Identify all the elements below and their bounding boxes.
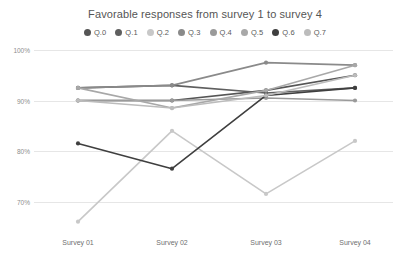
- chart-container: Favorable responses from survey 1 to sur…: [0, 0, 410, 265]
- data-point-marker[interactable]: [76, 220, 80, 224]
- data-point-marker[interactable]: [353, 139, 357, 143]
- data-point-marker[interactable]: [264, 192, 268, 196]
- x-tick-label: Survey 04: [339, 239, 371, 246]
- data-point-marker[interactable]: [353, 98, 357, 102]
- data-point-marker[interactable]: [264, 93, 268, 97]
- data-point-marker[interactable]: [264, 88, 268, 92]
- data-point-marker[interactable]: [170, 106, 174, 110]
- data-point-marker[interactable]: [76, 98, 80, 102]
- series-q3: [76, 61, 357, 90]
- plot-area: 100%90%80%70% Survey 01Survey 02Survey 0…: [0, 0, 410, 265]
- data-point-marker[interactable]: [170, 98, 174, 102]
- data-point-marker[interactable]: [76, 86, 80, 90]
- data-point-marker[interactable]: [353, 63, 357, 67]
- data-point-marker[interactable]: [170, 167, 174, 171]
- data-point-marker[interactable]: [264, 61, 268, 65]
- series-q2: [76, 129, 357, 224]
- x-tick-label: Survey 03: [250, 239, 282, 246]
- data-point-marker[interactable]: [353, 86, 357, 90]
- series-lines: [0, 0, 410, 265]
- data-point-marker[interactable]: [170, 83, 174, 87]
- data-point-marker[interactable]: [353, 73, 357, 77]
- x-tick-label: Survey 01: [62, 239, 94, 246]
- data-point-marker[interactable]: [170, 129, 174, 133]
- series-q0: [76, 73, 357, 102]
- data-point-marker[interactable]: [76, 141, 80, 145]
- series-line: [78, 131, 355, 222]
- x-tick-label: Survey 02: [156, 239, 188, 246]
